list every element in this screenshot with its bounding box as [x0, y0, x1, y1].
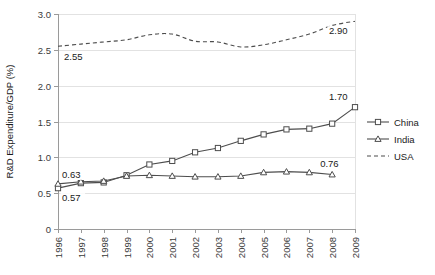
y-axis-tick-label: 2.5	[38, 45, 51, 56]
x-axis-tick-label: 2005	[259, 237, 270, 258]
y-axis-tick-label: 1.5	[38, 117, 51, 128]
y-axis-tick-label: 0	[46, 224, 51, 235]
x-axis-tick-label: 2003	[213, 237, 224, 258]
data-point-label-2-55: 2.55	[64, 51, 83, 62]
data-point-label-1-70: 1.70	[329, 91, 348, 102]
data-point-marker-square-china-2000	[147, 162, 152, 167]
data-point-marker-square-china-2005	[261, 132, 266, 137]
data-point-label-0-63: 0.63	[62, 169, 81, 180]
x-axis-tick-label: 1996	[53, 237, 64, 258]
data-point-marker-square-china-2007	[307, 126, 312, 131]
x-axis-tick-label: 2006	[281, 237, 292, 258]
x-axis-tick-label: 1999	[122, 237, 133, 258]
x-axis-tick-label: 2004	[236, 237, 247, 258]
data-point-marker-square-china-2001	[170, 158, 175, 163]
data-point-marker-square-china-2002	[192, 150, 197, 155]
y-axis-tick-label: 1.0	[38, 152, 51, 163]
data-point-marker-square-china-2009	[352, 105, 357, 110]
x-axis-tick-label: 2008	[327, 237, 338, 258]
y-axis-title-label: R&D Expenditure/GDP (%)	[4, 65, 15, 179]
y-axis-tick-label: 2.0	[38, 81, 51, 92]
y-axis-tick-label: 0.5	[38, 188, 51, 199]
x-axis-tick-label: 2002	[190, 237, 201, 258]
legend-label-india: India	[394, 134, 415, 145]
data-point-marker-square-china-2006	[284, 127, 289, 132]
x-axis-tick-label: 2009	[350, 237, 361, 258]
data-point-label-0-57: 0.57	[62, 192, 81, 203]
data-point-marker-square-china-2003	[215, 145, 220, 150]
rd-expenditure-line-chart: 00.51.01.52.02.53.0 19961997199819992000…	[0, 0, 435, 275]
data-point-marker-square-china-2008	[330, 121, 335, 126]
x-axis-tick-label: 2000	[144, 237, 155, 258]
data-point-marker-square-china-2004	[238, 138, 243, 143]
legend-label-usa: USA	[394, 151, 414, 162]
legend-label-china: China	[394, 117, 420, 128]
chart-background	[0, 0, 435, 275]
y-axis-tick-label: 3.0	[38, 9, 51, 20]
x-axis-tick-label: 1997	[76, 237, 87, 258]
data-point-label-0-76: 0.76	[320, 158, 339, 169]
y-axis-title: R&D Expenditure/GDP (%)	[4, 65, 15, 179]
x-axis-tick-label: 2007	[304, 237, 315, 258]
x-axis-tick-label: 1998	[99, 237, 110, 258]
x-axis-tick-label: 2001	[167, 237, 178, 258]
data-point-marker-square-legend-china	[375, 119, 380, 124]
chart-container: 00.51.01.52.02.53.0 19961997199819992000…	[0, 0, 435, 275]
data-point-label-2-90: 2.90	[329, 25, 348, 36]
